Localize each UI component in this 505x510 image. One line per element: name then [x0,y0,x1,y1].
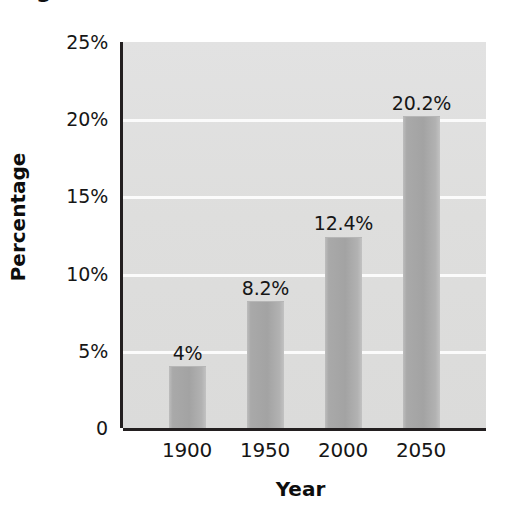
bar-value-label-1900: 4% [173,342,203,364]
x-axis-tick-label-1900: 1900 [162,438,212,462]
bar-chart-figure: g 25% 20% 15% 10% 5% 0 Percentage 4% 8.2… [0,0,505,510]
x-axis-tick-label-1950: 1950 [240,438,290,462]
bar-2050 [403,116,440,428]
x-axis-title-text: Year [276,477,326,501]
y-axis-tick-label: 5% [10,340,118,362]
bar-2000 [325,237,362,429]
bar-1950 [247,301,284,428]
x-axis-tick-label-2050: 2050 [396,438,446,462]
y-axis-tick-label: 25% [10,31,118,53]
y-axis-tick-label: 20% [10,108,118,130]
bar-value-label-2000: 12.4% [314,212,373,234]
x-axis-title: Year [0,477,505,501]
y-axis-tick-label: 0 [10,417,118,439]
x-axis-tick-label-2000: 2000 [318,438,368,462]
bar-1900 [169,366,206,428]
bar-value-label-1950: 8.2% [242,277,289,299]
y-axis-title: Percentage [6,137,30,297]
plot-area: 4% 8.2% 12.4% 20.2% [120,42,486,428]
bar-value-label-2050: 20.2% [392,92,451,114]
